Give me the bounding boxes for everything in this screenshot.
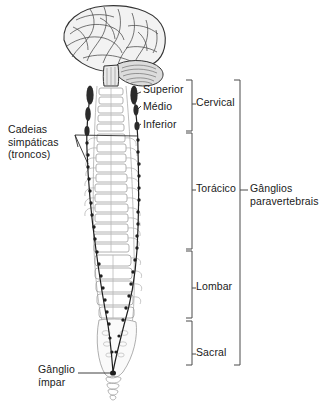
ganglio-cervical-medio-esq: [85, 107, 91, 121]
bracket-cervical: [186, 80, 192, 131]
label-cadeias-simpaticas: Cadeias simpáticas (troncos): [8, 123, 59, 161]
leader-chains: [75, 135, 138, 164]
label-ganglio-inferior: Inferior: [143, 118, 176, 131]
label-regiao-lombar: Lombar: [196, 280, 232, 293]
lumbar-vertebrae: [95, 255, 142, 318]
sacrum: [97, 319, 136, 378]
coccyx: [106, 377, 121, 401]
bracket-sacral: [186, 321, 192, 365]
bracket-toracico: [186, 133, 192, 249]
label-regiao-cervical: Cervical: [196, 96, 235, 109]
label-regiao-sacral: Sacral: [196, 346, 226, 359]
bracket-paravertebrais: [234, 80, 240, 365]
ganglio-cervical-superior-esq: [86, 86, 93, 105]
label-regiao-toracico: Torácico: [196, 182, 236, 195]
label-ganglio-impar: Gânglio ímpar: [38, 363, 75, 388]
cervical-vertebrae: [97, 88, 124, 131]
ganglio-cervical-medio-dir: [133, 105, 138, 116]
ganglio-impar-marker: [110, 370, 116, 375]
label-ganglios-paravertebrais: Gânglios paravertebrais: [250, 182, 319, 207]
region-brackets: [186, 80, 248, 365]
ganglio-cervical-inferior-dir: [134, 122, 139, 130]
bracket-lombar: [186, 251, 192, 318]
label-ganglio-medio: Médio: [143, 100, 172, 113]
ganglio-cervical-inferior-esq: [84, 126, 89, 136]
label-ganglio-superior: Superior: [143, 83, 184, 96]
brain-illustration: [64, 6, 165, 86]
cervical-ganglia: [84, 86, 139, 137]
